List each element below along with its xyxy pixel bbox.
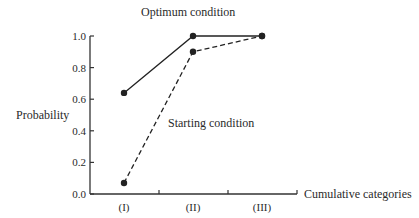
annotation-optimum: Optimum condition <box>141 5 235 19</box>
y-tick-label: 0.0 <box>72 188 86 200</box>
y-axis-label: Probability <box>16 108 69 122</box>
x-tick-label: (II) <box>186 201 201 214</box>
y-tick-label: 0.2 <box>72 156 86 168</box>
y-tick-label: 0.6 <box>72 93 86 105</box>
chart: 0.00.20.40.60.81.0(I)(II)(III) Probabili… <box>0 0 419 218</box>
y-tick-label: 1.0 <box>72 30 86 42</box>
annotation-starting: Starting condition <box>168 116 254 130</box>
series-line-starting <box>124 36 262 183</box>
x-tick-label: (III) <box>253 201 272 214</box>
data-point <box>190 49 196 55</box>
series-line-optimum <box>124 36 262 93</box>
x-axis-label: Cumulative categories <box>304 187 412 201</box>
x-tick-label: (I) <box>119 201 130 214</box>
data-point <box>121 90 127 96</box>
data-point <box>190 33 196 39</box>
y-tick-label: 0.8 <box>72 62 86 74</box>
series-group <box>121 33 265 186</box>
data-point <box>121 180 127 186</box>
data-point <box>259 33 265 39</box>
y-tick-label: 0.4 <box>72 125 86 137</box>
